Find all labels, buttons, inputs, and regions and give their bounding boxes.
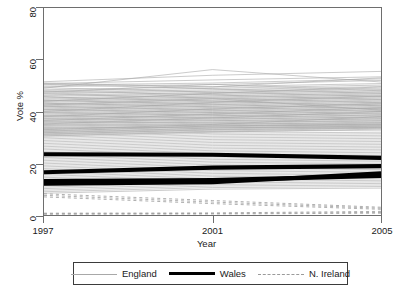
x-axis-title: Year — [0, 238, 413, 249]
y-tick-label: 80 — [27, 7, 39, 18]
y-tick-label: 40 — [27, 112, 39, 123]
legend-item-nireland: N. Ireland — [258, 268, 350, 279]
legend-label-nireland: N. Ireland — [309, 268, 350, 279]
x-tick-mark — [213, 216, 214, 223]
series-layer — [44, 8, 381, 215]
y-tick-label-wrap: 0 — [0, 210, 33, 222]
legend-item-england: England — [71, 268, 157, 279]
y-tick-label-wrap: 80 — [0, 1, 33, 13]
legend-line-england-icon — [71, 269, 117, 279]
legend-label-england: England — [122, 268, 157, 279]
y-tick-label-wrap: 40 — [0, 106, 33, 118]
legend-item-wales: Wales — [169, 268, 246, 279]
legend-line-nireland-icon — [258, 269, 304, 279]
series-line-n-ireland — [44, 194, 381, 207]
y-tick-label: 60 — [27, 59, 39, 70]
y-tick-label-wrap: 60 — [0, 53, 33, 65]
series-line-n-ireland — [44, 195, 381, 208]
y-tick-label-wrap: 20 — [0, 158, 33, 170]
x-tick-label: 2001 — [202, 225, 223, 236]
x-tick-label: 2005 — [371, 225, 392, 236]
chart-legend: England Wales N. Ireland — [73, 262, 348, 285]
legend-line-wales-icon — [169, 269, 215, 279]
x-tick-label: 1997 — [32, 225, 53, 236]
chart-figure: Vote % 020406080 199720012005 Year Engla… — [0, 0, 413, 290]
x-tick-mark — [43, 216, 44, 223]
series-line-n-ireland — [44, 197, 381, 209]
y-tick-label: 0 — [27, 216, 39, 221]
x-tick-mark — [381, 216, 382, 223]
plot-area — [43, 7, 382, 216]
y-tick-label: 20 — [27, 164, 39, 175]
legend-label-wales: Wales — [220, 268, 246, 279]
